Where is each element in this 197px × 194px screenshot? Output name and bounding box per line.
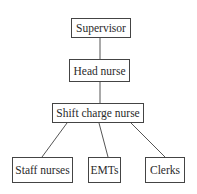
edge-shift-charge-emts xyxy=(99,123,108,157)
node-clerks: Clerks xyxy=(145,157,185,183)
node-label: Head nurse xyxy=(73,65,125,77)
node-emts: EMTs xyxy=(88,157,121,183)
node-label: Supervisor xyxy=(76,22,126,34)
node-head-nurse: Head nurse xyxy=(69,59,130,82)
node-label: Staff nurses xyxy=(15,164,69,176)
node-label: Clerks xyxy=(150,164,180,176)
node-label: EMTs xyxy=(91,164,119,176)
edge-shift-charge-staff-nurses xyxy=(42,123,67,157)
node-supervisor: Supervisor xyxy=(71,18,131,38)
node-label: Shift charge nurse xyxy=(56,107,139,119)
node-staff-nurses: Staff nurses xyxy=(12,157,73,183)
node-shift-charge-nurse: Shift charge nurse xyxy=(52,103,144,123)
edge-shift-charge-clerks xyxy=(131,123,165,157)
